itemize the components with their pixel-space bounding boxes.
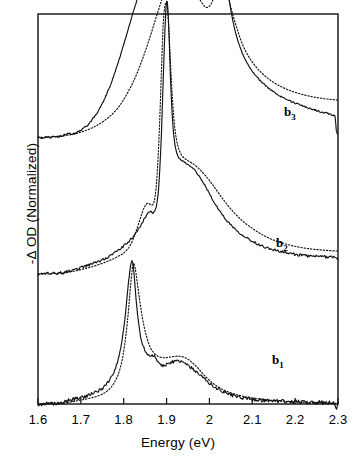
spectra-figure: -Δ OD (Normalized) Energy (eV) 1.61.71.8… bbox=[0, 0, 356, 460]
x-tick-label: 2.1 bbox=[232, 412, 272, 427]
curve-fit bbox=[38, 2, 338, 274]
x-tick-label: 1.7 bbox=[61, 412, 101, 427]
x-tick-label: 1.6 bbox=[18, 412, 58, 427]
trace-label-b1: b1 bbox=[272, 352, 284, 370]
x-tick-label: 1.8 bbox=[104, 412, 144, 427]
axes-frame bbox=[38, 14, 338, 404]
plot-canvas bbox=[0, 0, 356, 460]
curve-fit bbox=[38, 263, 338, 404]
y-axis-label: -Δ OD (Normalized) bbox=[24, 89, 39, 319]
x-tick-label: 2 bbox=[189, 412, 229, 427]
curve-experimental bbox=[38, 261, 338, 410]
x-tick-label: 2.3 bbox=[318, 412, 356, 427]
x-axis-label: Energy (eV) bbox=[0, 435, 356, 450]
curve-experimental bbox=[38, 1, 338, 275]
trace-label-b3: b3 bbox=[284, 104, 296, 122]
x-tick-label: 2.2 bbox=[275, 412, 315, 427]
trace-label-b2: b2 bbox=[276, 235, 288, 253]
x-tick-label: 1.9 bbox=[147, 412, 187, 427]
